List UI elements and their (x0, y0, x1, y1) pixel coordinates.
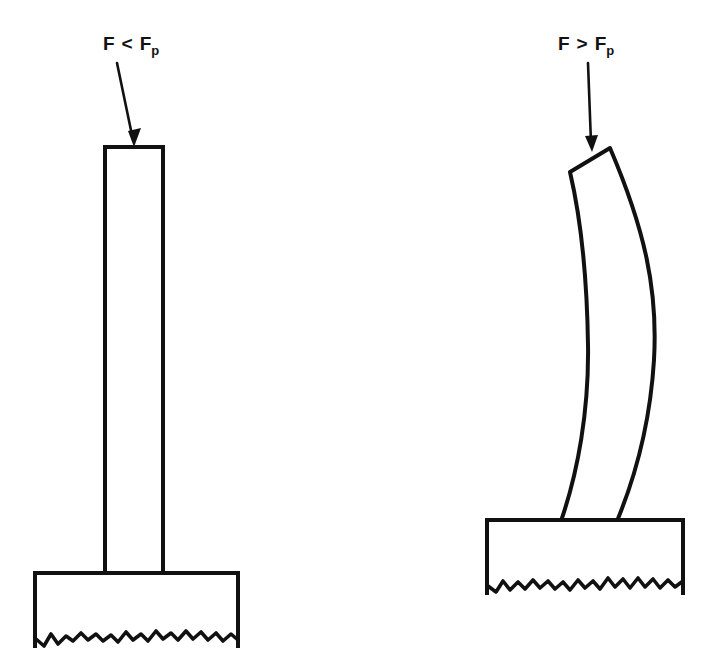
right-label-relation: > (577, 33, 588, 54)
right-label-critical-symbol: F (595, 33, 607, 54)
right-label-force-symbol: F (558, 33, 570, 54)
right-foundation-block (487, 520, 683, 595)
left-label-relation: < (122, 33, 133, 54)
left-column-body (105, 147, 163, 574)
left-foundation-block (35, 573, 238, 648)
right-label-subscript: p (606, 43, 614, 58)
column-buckling-diagram: F<Fp F>Fp (0, 0, 724, 670)
left-label-force-symbol: F (103, 33, 115, 54)
left-label-critical-symbol: F (140, 33, 152, 54)
left-label-subscript: p (151, 43, 159, 58)
